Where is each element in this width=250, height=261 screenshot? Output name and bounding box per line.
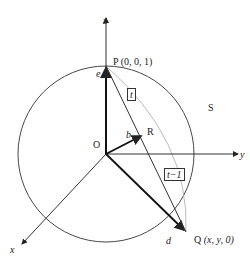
sphere-diagram [0,0,250,261]
point-r-label: R [147,127,154,137]
vector-b-label: b [126,130,131,140]
line-PQ [106,66,186,232]
z-axis-label: z [103,16,107,26]
segment-label-t: t [127,88,136,101]
sphere-label: S [208,103,214,113]
x-axis-label: x [10,245,14,255]
segment-label-t-minus-1: t−1 [164,168,185,181]
point-p-label: P (0, 0, 1) [113,57,152,67]
y-axis-label: y [240,150,244,160]
vector-d-label: d [166,236,171,246]
vector-e-label: e [96,69,100,79]
point-q-label: Q (x, y, 0) [194,235,234,245]
vector-d [106,154,184,230]
vector-b [106,136,141,154]
origin-label: O [93,140,100,150]
x-axis [22,154,106,244]
